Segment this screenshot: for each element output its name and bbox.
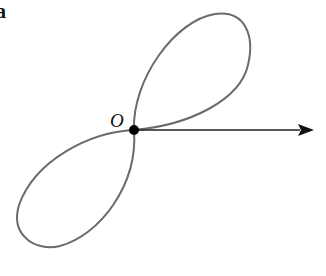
arrowhead-icon [298, 124, 314, 136]
origin-label: O [110, 110, 124, 131]
pole-point [129, 125, 139, 135]
lower-loop-curve [17, 130, 134, 247]
panel-label: a [0, 0, 6, 22]
polar-figure: a O [0, 0, 326, 276]
upper-loop-curve [134, 14, 250, 130]
